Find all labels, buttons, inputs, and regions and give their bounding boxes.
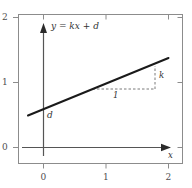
y-tick-label-1: 1 xyxy=(2,77,8,87)
x-tick-label-0: 0 xyxy=(41,172,47,182)
y-axis-ticks-right xyxy=(178,18,183,148)
x-tick-label-1: 1 xyxy=(103,172,109,182)
y-tick-label-2: 2 xyxy=(2,12,8,22)
y-axis-arrowhead xyxy=(40,23,47,33)
x-axis-ticks xyxy=(44,164,169,169)
x-axis-ticks-top xyxy=(44,15,169,20)
linear-function-chart: 2 1 0 0 1 2 y = kx + d d 1 k x xyxy=(0,0,192,188)
intercept-label-d: d xyxy=(47,110,53,120)
y-tick-label-0: 0 xyxy=(2,142,8,152)
run-label-1: 1 xyxy=(113,90,118,100)
x-tick-label-2: 2 xyxy=(166,172,172,182)
equation-label: y = kx + d xyxy=(51,21,99,31)
x-axis-name-label: x xyxy=(168,150,173,160)
y-axis-ticks xyxy=(13,18,19,148)
rise-label-k: k xyxy=(159,70,164,80)
function-line xyxy=(28,58,169,116)
